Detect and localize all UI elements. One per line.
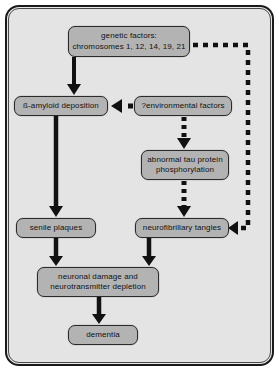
node-senile-plaques-label: senile plaques — [27, 223, 86, 234]
node-dementia-label: dementia — [83, 330, 123, 341]
node-neuronal-damage-label: neuronal damage and neurotransmitter dep… — [47, 272, 149, 293]
node-neurofibrillary-tangles[interactable]: neurofibrillary tangles — [135, 218, 229, 238]
node-neuronal-damage[interactable]: neuronal damage and neurotransmitter dep… — [37, 267, 159, 297]
figure-inner-frame — [8, 8, 271, 363]
node-neurofibrillary-tangles-label: neurofibrillary tangles — [140, 223, 224, 234]
node-amyloid-deposition[interactable]: ß-amyloid deposition — [14, 96, 108, 116]
node-dementia[interactable]: dementia — [68, 325, 138, 345]
node-amyloid-deposition-label: ß-amyloid deposition — [20, 101, 102, 112]
node-abnormal-tau-phosphorylation-label: abnormal tau protein phosphorylation — [144, 155, 225, 176]
node-genetic-factors[interactable]: genetic factors: chromosomes 1, 12, 14, … — [68, 26, 190, 57]
node-environmental-factors-label: ?environmental factors — [138, 101, 227, 112]
node-senile-plaques[interactable]: senile plaques — [16, 218, 96, 238]
node-environmental-factors[interactable]: ?environmental factors — [134, 96, 232, 116]
flowchart-figure: genetic factors: chromosomes 1, 12, 14, … — [0, 0, 279, 371]
node-genetic-factors-label: genetic factors: chromosomes 1, 12, 14, … — [69, 31, 188, 52]
node-abnormal-tau-phosphorylation[interactable]: abnormal tau protein phosphorylation — [141, 150, 229, 180]
